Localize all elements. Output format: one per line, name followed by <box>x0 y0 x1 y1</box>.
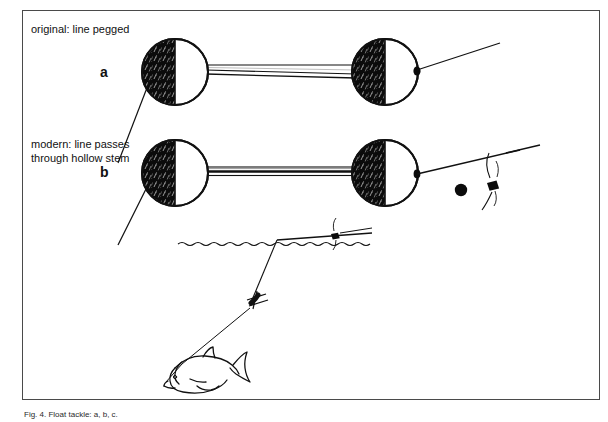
annotation-modern-line2: through hollow stem <box>31 151 129 165</box>
annotation-modern: modern: line passes through hollow stem <box>31 137 129 165</box>
float-stem-bottom <box>206 167 356 176</box>
float-body-bottom-left <box>140 138 208 208</box>
figure-artwork <box>0 0 608 422</box>
float-body-top-left <box>140 37 208 107</box>
fishing-line-top <box>417 43 500 70</box>
fishing-line-main <box>252 240 277 300</box>
item-label-b: b <box>100 164 109 180</box>
float-stem-top <box>206 65 356 78</box>
annotation-modern-line1: modern: line passes <box>31 137 129 151</box>
line-bead-b <box>455 184 467 196</box>
float-body-bottom-right <box>350 138 420 208</box>
fishing-line-surface <box>277 233 372 240</box>
water-surface-line <box>178 243 370 246</box>
figure-page: original: line pegged modern: line passe… <box>0 0 608 422</box>
fishing-line-leader <box>182 308 250 364</box>
fishing-line-bottom <box>417 150 520 174</box>
fishing-line-bottom-left-tail <box>118 181 150 245</box>
annotation-original: original: line pegged <box>31 22 129 36</box>
hooked-fish <box>164 347 250 393</box>
stop-knot-b <box>482 153 499 210</box>
sinker-weight <box>247 291 268 309</box>
fishing-line-bottom-extension <box>506 145 540 153</box>
item-label-a: a <box>100 64 108 80</box>
float-body-top-right <box>350 37 421 107</box>
figure-caption: Fig. 4. Float tackle: a, b, c. <box>24 410 118 422</box>
